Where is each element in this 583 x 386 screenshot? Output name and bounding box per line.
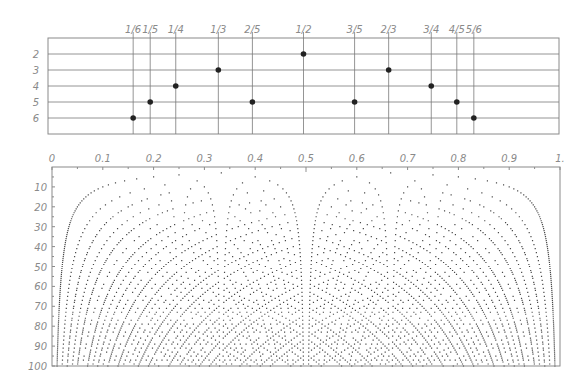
y-tick-label: 4 — [33, 81, 39, 92]
data-point — [301, 51, 307, 57]
x-tick-label: 1/6 — [125, 24, 141, 35]
y-tick-label: 30 — [34, 222, 47, 233]
y-tick-label: 20 — [34, 202, 47, 213]
y-tick-label: 50 — [34, 262, 47, 273]
y-tick-label: 3 — [33, 65, 39, 76]
x-tick-label: 1/4 — [168, 24, 184, 35]
x-tick-label: 0.1 — [95, 153, 111, 164]
bottom-plot-frame — [52, 167, 560, 366]
x-tick-label: 0.2 — [146, 153, 162, 164]
data-point — [250, 99, 256, 105]
y-tick-label: 80 — [34, 321, 47, 332]
data-point — [454, 99, 460, 105]
x-tick-label: 0.9 — [501, 153, 517, 164]
x-tick-label: 1/5 — [142, 24, 158, 35]
x-tick-label: 3/4 — [423, 24, 439, 35]
data-point — [428, 83, 434, 89]
x-tick-label: 2/3 — [381, 24, 397, 35]
data-point — [147, 99, 153, 105]
x-tick-label: 5/6 — [466, 24, 482, 35]
x-tick-label: 0 — [49, 153, 55, 164]
y-tick-label: 90 — [34, 341, 47, 352]
x-tick-label: 0.8 — [450, 153, 466, 164]
bottom-fraction-scatter: 00.10.20.30.40.50.60.70.80.91.1020304050… — [28, 153, 565, 372]
y-tick-label: 2 — [33, 49, 39, 60]
farey-chart: 234561/61/51/41/32/51/23/52/33/44/55/6 0… — [0, 0, 583, 386]
x-tick-label: 0.3 — [196, 153, 212, 164]
data-point — [471, 115, 477, 121]
y-tick-label: 60 — [34, 281, 47, 292]
data-point — [386, 67, 392, 73]
fraction-points — [56, 170, 555, 366]
y-tick-label: 10 — [34, 182, 47, 193]
x-tick-label: 2/5 — [244, 24, 260, 35]
data-point — [173, 83, 179, 89]
y-tick-label: 6 — [33, 113, 39, 124]
x-tick-label: 0.5 — [298, 153, 314, 164]
x-tick-label: 1. — [555, 153, 565, 164]
y-tick-label: 40 — [34, 242, 47, 253]
y-tick-label: 100 — [28, 361, 47, 372]
x-tick-label: 4/5 — [449, 24, 465, 35]
data-point — [216, 67, 222, 73]
x-tick-label: 1/2 — [295, 24, 311, 35]
y-tick-label: 70 — [34, 301, 47, 312]
x-tick-label: 0.4 — [247, 153, 263, 164]
data-point — [352, 99, 358, 105]
top-fraction-chart: 234561/61/51/41/32/51/23/52/33/44/55/6 — [33, 24, 559, 134]
data-point — [130, 115, 136, 121]
x-tick-label: 3/5 — [347, 24, 363, 35]
fraction-dots — [56, 170, 555, 366]
y-tick-label: 5 — [33, 97, 39, 108]
x-tick-label: 0.7 — [400, 153, 417, 164]
x-tick-label: 0.6 — [349, 153, 365, 164]
x-tick-label: 1/3 — [210, 24, 226, 35]
